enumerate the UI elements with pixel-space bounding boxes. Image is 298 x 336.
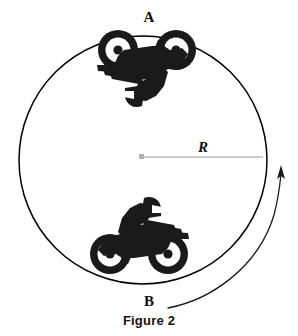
label-point-a: A [0, 10, 298, 25]
figure-caption: Figure 2 [0, 314, 298, 327]
label-point-b: B [0, 294, 298, 309]
motorcycle-at-b [90, 197, 189, 274]
figure-canvas [0, 0, 298, 336]
direction-arrow-arc [168, 174, 281, 308]
label-radius: R [198, 140, 208, 155]
figure-diagram: A B R Figure 2 [0, 0, 298, 336]
center-dot [139, 154, 144, 159]
motorcycle-at-a [97, 30, 196, 107]
